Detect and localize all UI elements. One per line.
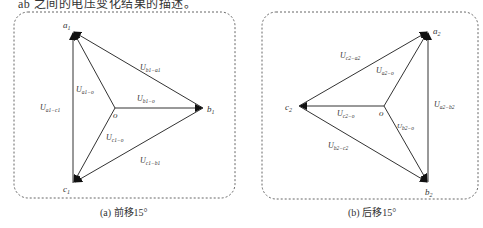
caption-b: (b) 后移15°	[348, 204, 396, 219]
panel-b-diagram	[299, 32, 428, 182]
phasor-diagrams: a1 b1 c1 o Ub1−a1 Ua1−o Ub1−o Ua1−c1 Uc1…	[0, 0, 483, 228]
svg-text:Ua2−o: Ua2−o	[376, 66, 394, 76]
svg-text:o: o	[113, 110, 118, 120]
svg-text:Ua1−c1: Ua1−c1	[40, 103, 60, 113]
svg-text:Ub1−a1: Ub1−a1	[140, 63, 161, 73]
svg-text:Ub2−o: Ub2−o	[397, 122, 414, 131]
svg-text:c2: c2	[285, 102, 292, 113]
svg-text:b2: b2	[425, 187, 433, 198]
svg-text:Uc2−a2: Uc2−a2	[340, 51, 360, 61]
svg-text:Ua1−o: Ua1−o	[76, 85, 94, 95]
panel-a-frame	[14, 12, 235, 198]
svg-text:Uc1−o: Uc1−o	[106, 133, 124, 143]
svg-text:c1: c1	[63, 184, 70, 195]
svg-text:Uc1−b1: Uc1−b1	[140, 156, 160, 166]
panel-a-diagram	[73, 32, 203, 183]
svg-text:a2: a2	[433, 26, 441, 37]
svg-text:b1: b1	[207, 104, 215, 115]
caption-a: (a) 前移15°	[100, 204, 148, 219]
svg-text:Uc2−o: Uc2−o	[337, 109, 355, 119]
svg-text:o: o	[379, 108, 384, 118]
svg-text:a1: a1	[63, 20, 71, 31]
svg-text:Ua2−b2: Ua2−b2	[434, 100, 455, 110]
svg-text:Ub1−o: Ub1−o	[137, 94, 155, 104]
svg-text:Ub2−c2: Ub2−c2	[328, 141, 348, 151]
